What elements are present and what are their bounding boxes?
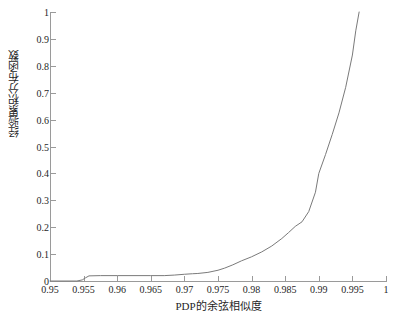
x-tick-label: 0.96 (108, 284, 126, 296)
x-tick-label: 0.985 (274, 284, 297, 296)
x-tick-label: 0.955 (72, 284, 95, 296)
x-tick-mark (386, 276, 387, 281)
x-tick-label: 0.975 (207, 284, 230, 296)
x-tick-label: 1 (384, 284, 389, 296)
x-axis-line (50, 281, 387, 282)
y-tick-label: 0.4 (9, 168, 49, 179)
y-tick-label: 0.9 (9, 33, 49, 44)
y-tick-label: 0.3 (9, 195, 49, 206)
x-tick-label: 0.99 (310, 284, 328, 296)
x-tick-label: 0.965 (140, 284, 163, 296)
ecdf-curve (50, 12, 386, 281)
y-tick-label: 0 (9, 276, 49, 287)
y-axis-label: 经验累积分布函数 (8, 50, 22, 138)
x-tick-label: 0.97 (176, 284, 194, 296)
x-tick-label: 0.995 (341, 284, 364, 296)
plot-area (50, 12, 386, 281)
y-tick-label: 0.5 (9, 141, 49, 152)
x-axis-label: PDP的余弦相似度 (50, 299, 387, 313)
x-tick-label: 0.98 (243, 284, 261, 296)
chart-figure: 0.950.9550.960.9650.970.9750.980.9850.99… (0, 0, 403, 329)
y-tick-label: 1 (9, 7, 49, 18)
y-tick-label: 0.1 (9, 249, 49, 260)
y-tick-label: 0.2 (9, 222, 49, 233)
